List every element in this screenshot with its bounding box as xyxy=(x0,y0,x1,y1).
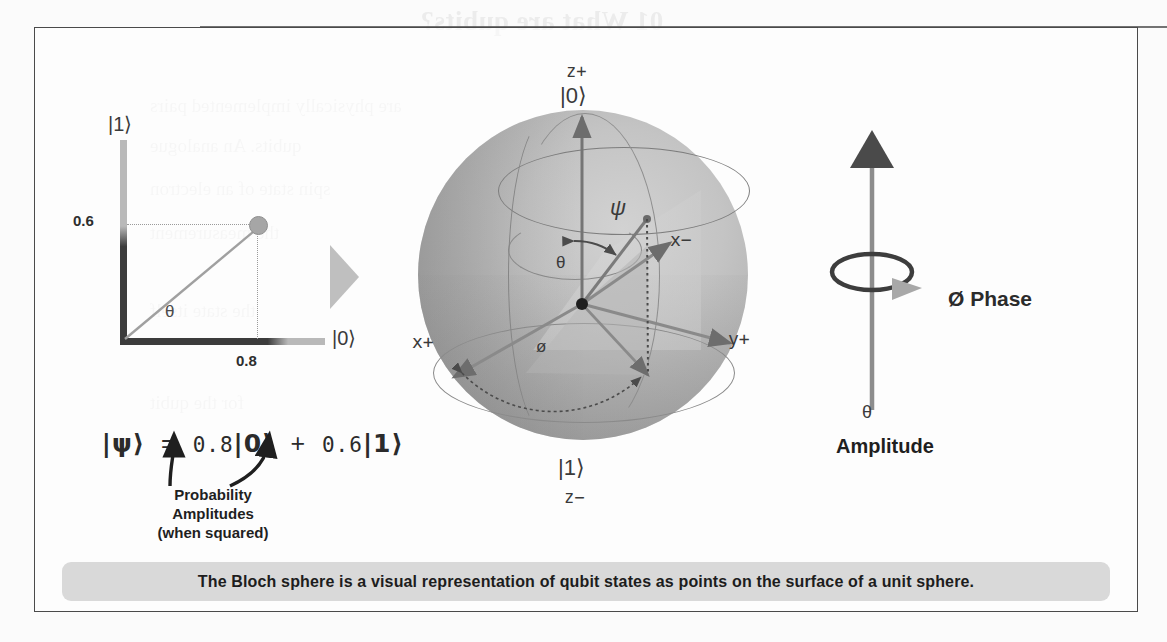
sphere-label-psi: ψ xyxy=(610,195,626,221)
sphere-origin-point xyxy=(576,298,588,310)
sphere-label-phi: ø xyxy=(536,337,546,357)
annotation-line-2: Amplitudes xyxy=(108,504,318,523)
annotation-line-3: (when squared) xyxy=(108,523,318,542)
sphere-label-z-minus: z− xyxy=(564,487,584,507)
plot-hypotenuse xyxy=(123,225,261,341)
sphere-label-x-plus: x+ xyxy=(412,331,434,352)
plot-x-tick-label: 0.8 xyxy=(236,352,257,369)
annotation-line-1: Probability xyxy=(108,485,318,504)
plot-y-axis-label: |1⟩ xyxy=(108,112,132,136)
sphere-label-ket-one: |1⟩ xyxy=(558,455,585,481)
plot-theta-label: θ xyxy=(165,302,174,322)
amplitude-theta-symbol: θ xyxy=(862,402,872,423)
sphere-label-ket-zero: |0⟩ xyxy=(560,83,587,109)
sphere-vectors xyxy=(398,55,788,525)
plot-x-axis-label: |0⟩ xyxy=(332,326,356,350)
play-triangle-icon xyxy=(330,245,359,309)
caption-text: The Bloch sphere is a visual representat… xyxy=(198,573,974,591)
equation-annotation: Probability Amplitudes (when squared) xyxy=(108,485,318,543)
sphere-label-theta: θ xyxy=(556,253,565,273)
sphere-label-z-plus: z+ xyxy=(566,61,586,81)
sphere-label-y-plus: y+ xyxy=(728,328,750,349)
plot-data-point xyxy=(249,216,268,235)
amplitude-plot: |1⟩ |0⟩ 0.6 0.8 θ xyxy=(60,120,360,390)
phase-label: Ø Phase xyxy=(948,287,1032,311)
bloch-sphere-diagram: z+ |0⟩ ψ x− y+ x+ θ ø |1⟩ z− xyxy=(398,55,788,525)
equation-callout-arrows xyxy=(70,430,400,490)
plot-y-tick-label: 0.6 xyxy=(73,212,94,229)
sphere-label-x-minus: x− xyxy=(670,229,692,250)
amplitude-phase-key: Ø Phase θ Amplitude xyxy=(830,110,1110,470)
state-equation-block: |ψ⟩ = 0.8|0⟩ + 0.6|1⟩ Probability Amplit… xyxy=(70,400,400,550)
amplitude-label: Amplitude xyxy=(836,435,934,458)
caption-bar: The Bloch sphere is a visual representat… xyxy=(62,562,1110,601)
